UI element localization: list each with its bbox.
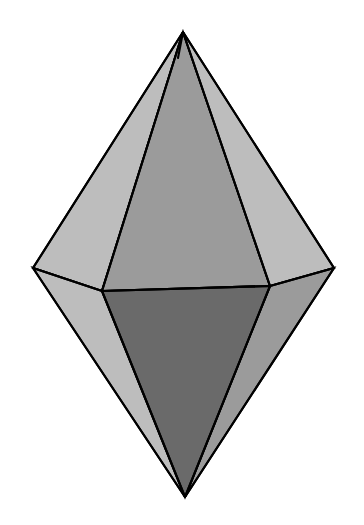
- figure-canvas: [0, 0, 364, 525]
- pentagonal-bipyramid-illustration: [0, 0, 364, 525]
